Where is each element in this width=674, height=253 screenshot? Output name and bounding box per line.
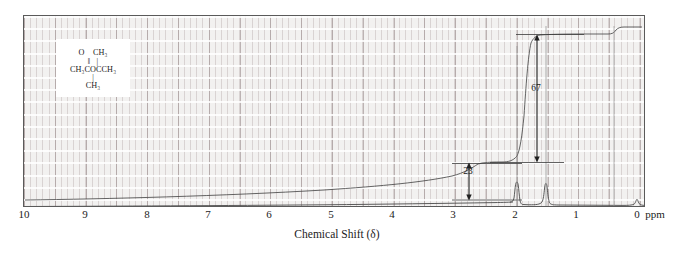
structure-bond-row-upper: ‖ | — [56, 58, 130, 65]
x-tick-6: 6 — [266, 208, 272, 220]
x-tick-8: 8 — [144, 208, 150, 220]
x-tick-3: 3 — [450, 208, 456, 220]
x-tick-10: 10 — [19, 208, 30, 220]
integration-label-67: 67 — [531, 83, 541, 93]
integration-label-23: 23 — [463, 166, 473, 176]
x-tick-4: 4 — [389, 208, 395, 220]
x-tick-2: 2 — [512, 208, 518, 220]
peak-tert-butyl — [529, 183, 622, 205]
x-tick-0: 0 — [634, 208, 640, 220]
x-axis-title: Chemical Shift (δ) — [0, 228, 674, 240]
ppm-unit-label: ppm — [645, 208, 665, 220]
x-tick-7: 7 — [205, 208, 211, 220]
x-tick-1: 1 — [573, 208, 579, 220]
peak-acetyl-ch3 — [510, 182, 529, 205]
x-tick-5: 5 — [328, 208, 334, 220]
x-axis-tick-labels: 10 9 8 7 6 5 4 3 2 1 0 ppm — [0, 208, 674, 224]
integration-arrow-67 — [534, 35, 539, 163]
x-tick-9: 9 — [82, 208, 88, 220]
baseline-trace — [25, 202, 513, 207]
structure-bond-row-lower: | — [56, 74, 130, 81]
peak-tms — [622, 199, 645, 205]
nmr-figure: O CH₃ ‖ | CH₃COCCH₃ | CH₃ 23 67 10 9 8 7… — [0, 0, 674, 253]
spectrum-plot-area: O CH₃ ‖ | CH₃COCCH₃ | CH₃ — [23, 15, 645, 207]
structure-row-bottom: CH₃ — [56, 81, 130, 91]
structure-inset: O CH₃ ‖ | CH₃COCCH₃ | CH₃ — [56, 39, 130, 97]
